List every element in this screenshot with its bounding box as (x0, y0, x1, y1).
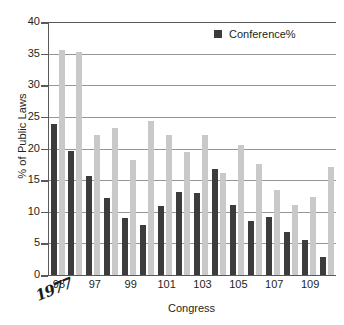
bar-secondary-105 (238, 145, 244, 275)
bar-conference-105 (230, 205, 236, 275)
bar-secondary-108 (292, 205, 298, 275)
legend-swatch-dark (214, 30, 222, 38)
bar-group-105 (230, 22, 248, 275)
y-tick-mark-0 (41, 275, 48, 277)
bar-group-107 (266, 22, 284, 275)
bar-secondary-100 (148, 121, 154, 275)
bar-secondary-102 (184, 152, 190, 275)
y-tick-label-40: 40 (6, 15, 40, 27)
bar-secondary-101 (166, 135, 172, 275)
bar-conference-101 (158, 206, 164, 275)
y-tick-mark-20 (41, 149, 48, 151)
y-tick-mark-5 (41, 243, 48, 245)
x-axis-title: Congress (48, 302, 335, 314)
y-tick-label-10: 10 (6, 205, 40, 217)
bar-group-108 (284, 22, 302, 275)
bar-group-104 (212, 22, 230, 275)
x-tick-label-101: 101 (152, 278, 182, 290)
legend-label-conference: Conference% (229, 28, 296, 40)
bar-conference-97 (86, 176, 92, 275)
bar-conference-106 (248, 221, 254, 275)
bar-conference-98 (104, 198, 110, 275)
y-tick-label-20: 20 (6, 142, 40, 154)
bar-secondary-107 (274, 190, 280, 275)
bar-secondary-109 (310, 197, 316, 275)
bar-group-98 (104, 22, 122, 275)
bar-conference-110 (320, 257, 326, 275)
plot-area (48, 22, 336, 276)
bar-secondary-99 (130, 160, 136, 275)
y-tick-mark-25 (41, 117, 48, 119)
bar-conference-103 (194, 193, 200, 275)
chart-legend: Conference% (214, 28, 296, 40)
y-tick-mark-30 (41, 85, 48, 87)
y-tick-label-25: 25 (6, 110, 40, 122)
y-tick-mark-35 (41, 54, 48, 56)
bar-conference-100 (140, 225, 146, 275)
x-tick-label-103: 103 (187, 278, 217, 290)
bar-group-100 (140, 22, 158, 275)
bar-conference-96 (68, 151, 74, 275)
bar-group-106 (248, 22, 266, 275)
bar-group-95 (51, 22, 69, 275)
x-tick-label-97: 97 (80, 278, 110, 290)
bar-group-99 (122, 22, 140, 275)
bar-conference-107 (266, 217, 272, 275)
bar-conference-104 (212, 169, 218, 275)
y-tick-mark-15 (41, 180, 48, 182)
bar-group-96 (68, 22, 86, 275)
bar-group-97 (86, 22, 104, 275)
bar-group-110 (320, 22, 338, 275)
y-tick-label-30: 30 (6, 78, 40, 90)
bar-group-102 (176, 22, 194, 275)
y-tick-label-35: 35 (6, 47, 40, 59)
bar-conference-108 (284, 232, 290, 275)
bar-conference-102 (176, 192, 182, 275)
bar-secondary-97 (94, 135, 100, 275)
bar-chart: % of Public Laws 0510152025303540 959799… (0, 0, 344, 325)
bar-group-101 (158, 22, 176, 275)
x-tick-label-107: 107 (259, 278, 289, 290)
bar-secondary-95 (59, 50, 65, 275)
y-tick-mark-40 (41, 22, 48, 24)
bar-series-container (49, 22, 336, 275)
y-tick-label-5: 5 (6, 236, 40, 248)
bar-secondary-96 (76, 52, 82, 275)
x-tick-label-105: 105 (223, 278, 253, 290)
y-tick-mark-10 (41, 212, 48, 214)
y-tick-label-0: 0 (6, 268, 40, 280)
x-tick-label-109: 109 (295, 278, 325, 290)
bar-conference-95 (51, 124, 57, 275)
bar-secondary-104 (220, 173, 226, 275)
bar-secondary-98 (112, 128, 118, 275)
bar-conference-109 (302, 240, 308, 275)
bar-secondary-110 (328, 167, 334, 275)
bar-conference-99 (122, 218, 128, 275)
bar-secondary-106 (256, 164, 262, 275)
x-tick-label-99: 99 (116, 278, 146, 290)
y-tick-label-15: 15 (6, 173, 40, 185)
bar-group-103 (194, 22, 212, 275)
bar-secondary-103 (202, 135, 208, 275)
bar-group-109 (302, 22, 320, 275)
